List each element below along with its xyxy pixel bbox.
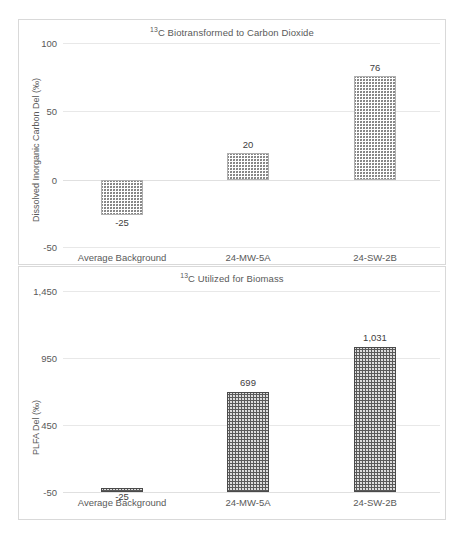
xtick-plfa-24-sw-2b: 24-SW-2B — [312, 497, 438, 508]
xtick-dic-average-background: Average Background — [59, 252, 185, 263]
ytick-dic-100: 100 — [41, 38, 57, 49]
ytick-dic-50: 50 — [46, 106, 57, 117]
ytick-plfa-950: 950 — [41, 353, 57, 364]
chart-title-dic-main: C Biotransformed to Carbon Dioxide — [158, 27, 314, 38]
chart-title-dic-isotope: 13 — [150, 26, 158, 33]
chart-title-dic: 13C Biotransformed to Carbon Dioxide — [19, 27, 445, 38]
bar-dic-24-mw-5a[interactable] — [227, 153, 269, 180]
y-axis-title-plfa: PLFA Del (‰) — [31, 400, 41, 455]
ytick-dic-0: 0 — [52, 175, 57, 186]
plot-area-plfa: 1,450 950 450 -50 -25 699 1,031 — [63, 291, 440, 492]
bar-plfa-24-mw-5a[interactable] — [227, 392, 269, 492]
ytick-plfa-1450: 1,450 — [33, 286, 57, 297]
plot-area-dic: 100 50 0 -50 -25 20 76 — [63, 43, 440, 248]
bar-value-plfa-24-sw-2b: 1,031 — [340, 332, 410, 343]
gridline-plfa-1450: 1,450 — [63, 291, 440, 292]
ytick-plfa-neg50: -50 — [43, 487, 57, 498]
bar-value-plfa-24-mw-5a: 699 — [213, 377, 283, 388]
y-axis-title-dic: Dissolved Inorganic Carbon Del (‰) — [31, 78, 41, 222]
figure-container: 13C Biotransformed to Carbon Dioxide Dis… — [0, 0, 464, 539]
xtick-plfa-24-mw-5a: 24-MW-5A — [185, 497, 311, 508]
bar-value-dic-24-sw-2b: 76 — [340, 62, 410, 73]
chart-title-plfa: 13C Utilized for Biomass — [19, 273, 445, 284]
gridline-dic-neg50: -50 — [63, 247, 440, 248]
chart-title-plfa-main: C Utilized for Biomass — [188, 273, 284, 284]
gridline-dic-100: 100 — [63, 43, 440, 44]
bar-dic-24-sw-2b[interactable] — [354, 76, 396, 180]
xtick-dic-24-sw-2b: 24-SW-2B — [312, 252, 438, 263]
bar-dic-average-background[interactable] — [101, 180, 143, 215]
ytick-dic-neg50: -50 — [43, 242, 57, 253]
ytick-plfa-450: 450 — [41, 420, 57, 431]
xtick-dic-24-mw-5a: 24-MW-5A — [185, 252, 311, 263]
bar-value-dic-24-mw-5a: 20 — [213, 139, 283, 150]
chart-title-plfa-isotope: 13 — [180, 272, 188, 279]
bar-value-dic-average-background: -25 — [87, 217, 157, 228]
bar-plfa-24-sw-2b[interactable] — [354, 347, 396, 492]
xtick-plfa-average-background: Average Background — [59, 497, 185, 508]
